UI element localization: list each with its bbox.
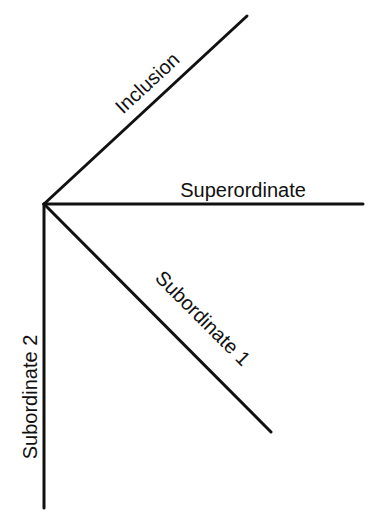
axis-superordinate: Superordinate — [44, 179, 363, 204]
superordinate-label: Superordinate — [180, 179, 306, 201]
axis-inclusion: Inclusion — [44, 16, 247, 204]
axis-subordinate-1: Subordinate 1 — [44, 204, 271, 432]
subordinate-1-line — [44, 204, 271, 432]
inclusion-line — [44, 16, 247, 204]
axis-subordinate-2: Subordinate 2 — [19, 204, 44, 508]
subordinate-1-label: Subordinate 1 — [151, 266, 255, 370]
subordinate-2-label: Subordinate 2 — [19, 335, 41, 460]
relation-axes-diagram: Inclusion Superordinate Subordinate 1 Su… — [0, 0, 378, 523]
